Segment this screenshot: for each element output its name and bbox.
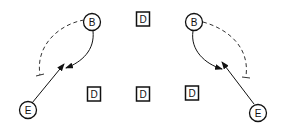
- diagram-svg: B E B E D D D D: [0, 0, 286, 135]
- node-E2: E: [250, 105, 267, 122]
- svg-text:D: D: [139, 89, 146, 100]
- left-play-group: [32, 20, 93, 103]
- right-play-group: [193, 22, 254, 104]
- svg-text:D: D: [188, 88, 195, 99]
- node-D1: D: [137, 12, 150, 26]
- svg-text:B: B: [89, 17, 96, 28]
- svg-text:B: B: [191, 17, 198, 28]
- diagram-canvas: B E B E D D D D: [0, 0, 286, 135]
- svg-text:E: E: [25, 105, 32, 116]
- curved-arrow-left: [66, 31, 93, 68]
- svg-text:E: E: [255, 108, 262, 119]
- curved-arrow-right: [193, 31, 222, 69]
- svg-text:D: D: [90, 89, 97, 100]
- dashed-route-right: [203, 22, 246, 76]
- svg-text:D: D: [139, 14, 146, 25]
- pass-arrow-right: [222, 62, 254, 104]
- node-D2: D: [88, 87, 101, 101]
- node-E1: E: [20, 102, 37, 119]
- node-D3: D: [137, 87, 150, 101]
- node-D4: D: [186, 86, 199, 100]
- node-B1: B: [84, 14, 101, 31]
- pass-arrow-left: [32, 64, 64, 103]
- node-B2: B: [186, 14, 203, 31]
